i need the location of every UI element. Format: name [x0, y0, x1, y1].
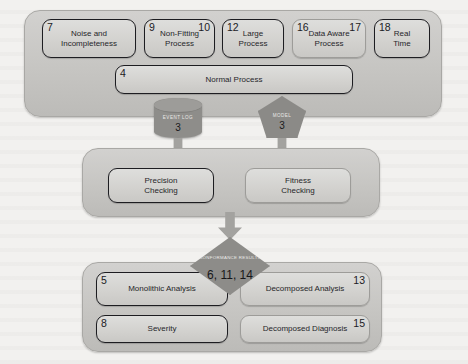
box-number-top-left: 5: [101, 275, 107, 286]
box-number-top-right: 15: [353, 318, 365, 329]
box-number-top-left: 16: [297, 22, 309, 33]
box-label: Precision Checking: [134, 176, 187, 196]
event-log-caption: EVENT LOG: [154, 115, 202, 120]
box-precision-checking[interactable]: Precision Checking: [108, 168, 214, 203]
box-number-top-left: 18: [379, 22, 391, 33]
box-label: Decomposed Diagnosis: [253, 324, 358, 334]
box-large-process[interactable]: 12 Large Process: [222, 19, 284, 58]
box-data-aware-process[interactable]: 16 17 Data Aware Process: [292, 19, 366, 58]
diagram-canvas: 7 Noise and Incompleteness 9 10 Non-Fitt…: [0, 0, 468, 364]
box-number-top-left: 4: [120, 68, 126, 79]
box-real-time[interactable]: 18 Real Time: [374, 19, 430, 58]
box-decomposed-analysis[interactable]: 13 Decomposed Analysis: [240, 272, 370, 306]
box-number-top-right: 10: [198, 22, 210, 33]
box-label: Monolithic Analysis: [118, 284, 206, 294]
box-label: Severity: [138, 324, 187, 334]
box-number-top-right: 13: [353, 275, 365, 286]
box-label: Fitness Checking: [271, 176, 324, 196]
model-number: 3: [258, 120, 306, 131]
box-noise-and-incompleteness[interactable]: 7 Noise and Incompleteness: [42, 19, 136, 58]
box-number-top-left: 9: [149, 22, 155, 33]
box-number-top-left: 12: [227, 22, 239, 33]
box-fitness-checking[interactable]: Fitness Checking: [245, 168, 351, 203]
box-severity[interactable]: 8 Severity: [96, 315, 228, 343]
box-label: Decomposed Analysis: [256, 284, 355, 294]
event-log-cylinder[interactable]: EVENT LOG 3: [154, 98, 202, 138]
box-decomposed-diagnosis[interactable]: 15 Decomposed Diagnosis: [240, 315, 370, 343]
box-normal-process[interactable]: 4 Normal Process: [115, 65, 353, 94]
box-label: Normal Process: [196, 75, 273, 85]
box-number-top-left: 8: [101, 318, 107, 329]
model-caption: MODEL: [258, 113, 306, 118]
conformance-results-caption: CONFORMANCE RESULTS: [190, 255, 270, 261]
event-log-number: 3: [154, 122, 202, 133]
box-label: Noise and Incompleteness: [51, 29, 127, 49]
box-number-top-left: 7: [47, 22, 53, 33]
box-number-top-right: 17: [349, 22, 361, 33]
box-non-fitting-process[interactable]: 9 10 Non-Fitting Process: [144, 19, 215, 58]
